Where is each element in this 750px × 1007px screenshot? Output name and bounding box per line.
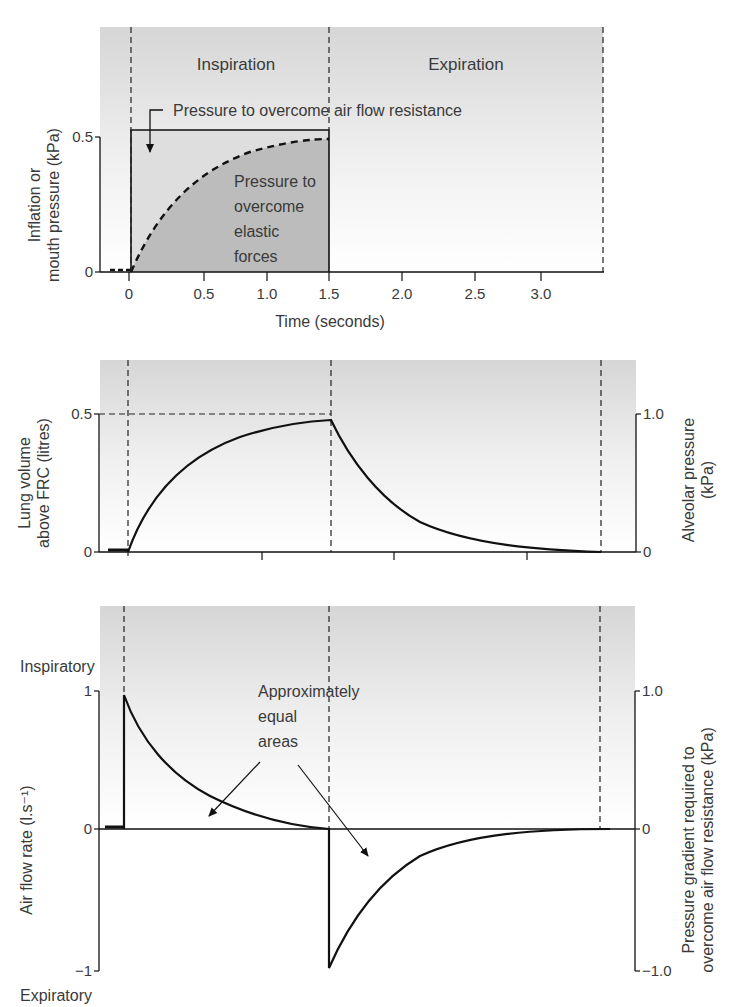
svg-text:overcome: overcome [234,198,304,215]
middle-y-tick-label-05: 0.5 [71,405,92,422]
middle-right-axis-title: Alveolar pressure (kPa) [680,418,716,543]
svg-text:Alveolar pressure: Alveolar pressure [680,418,697,543]
x-tick-label-2-5: 2.5 [465,285,486,302]
x-tick-label-3-0: 3.0 [531,285,552,302]
svg-text:equal: equal [258,708,297,725]
svg-text:above FRC (litres): above FRC (litres) [35,418,52,548]
expiration-label: Expiration [428,55,504,74]
expiratory-label: Expiratory [20,987,92,1004]
top-panel-pressure-chart: 0.5 0 0 0.5 1.0 1.5 2.0 2.5 3.0 Time (se… [26,27,604,330]
svg-text:forces: forces [234,248,278,265]
svg-text:Approximately: Approximately [258,683,359,700]
svg-text:Lung volume: Lung volume [16,437,33,529]
svg-text:areas: areas [258,733,298,750]
resistance-pressure-label: Pressure to overcome air flow resistance [173,102,462,119]
inspiratory-label: Inspiratory [20,658,95,675]
respiratory-mechanics-figure: 0.5 0 0 0.5 1.0 1.5 2.0 2.5 3.0 Time (se… [0,0,750,1007]
top-x-ticks [129,272,541,281]
inspiration-label: Inspiration [197,55,275,74]
middle-panel-volume-chart: 0.5 0 1.0 0 Lung volume above FRC (litre… [16,360,716,560]
top-y-tick-label-0: 0 [85,263,93,280]
svg-text:mouth pressure (kPa): mouth pressure (kPa) [45,128,62,282]
bottom-y-tick-label-0: 0 [84,820,92,837]
bottom-left-axis-title: Air flow rate (l.s⁻¹) [18,785,35,914]
svg-text:overcome air flow resistance (: overcome air flow resistance (kPa) [699,727,716,972]
bottom-right-tick-label-neg10: −1.0 [642,962,672,979]
middle-x-ticks [262,552,527,560]
bottom-right-tick-label-10: 1.0 [642,682,663,699]
bottom-right-axis-title: Pressure gradient required to overcome a… [680,727,716,972]
svg-text:Pressure to: Pressure to [234,173,316,190]
x-tick-label-2-0: 2.0 [392,285,413,302]
x-tick-label-0: 0 [125,285,133,302]
x-tick-label-1-5: 1.5 [319,285,340,302]
x-axis-title: Time (seconds) [275,313,385,330]
svg-text:elastic: elastic [234,223,279,240]
bottom-right-tick-label-0: 0 [642,820,650,837]
svg-text:Pressure gradient required to: Pressure gradient required to [680,746,697,953]
middle-panel-background-band [100,360,636,552]
svg-text:Inflation or: Inflation or [26,167,43,242]
bottom-panel-background-band [100,606,635,829]
svg-text:Air flow rate (l.s⁻¹): Air flow rate (l.s⁻¹) [18,785,35,914]
bottom-y-tick-label-neg1: −1 [75,962,92,979]
middle-right-tick-label-10: 1.0 [643,405,664,422]
x-tick-label-1-0: 1.0 [257,285,278,302]
top-y-axis-title: Inflation or mouth pressure (kPa) [26,128,62,282]
bottom-panel-airflow-chart: Approximately equal areas 1 0 −1 1.0 0 −… [18,606,716,1004]
x-tick-label-0-5: 0.5 [194,285,215,302]
top-y-tick-label-05: 0.5 [72,128,93,145]
bottom-y-tick-label-1: 1 [84,682,92,699]
middle-right-tick-label-0: 0 [643,543,651,560]
middle-y-tick-label-0: 0 [84,543,92,560]
middle-left-axis-title: Lung volume above FRC (litres) [16,418,52,548]
svg-text:(kPa): (kPa) [699,461,716,499]
